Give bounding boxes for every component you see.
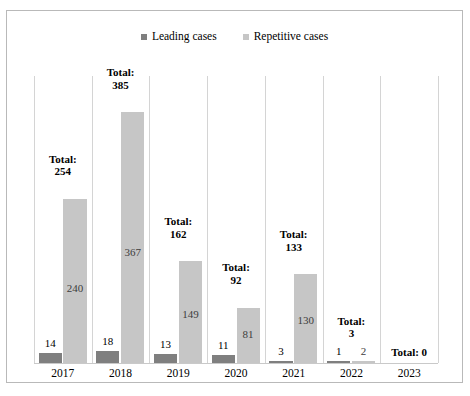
bar-group: 12Total: 3 bbox=[323, 76, 381, 363]
x-tick-label-2022: 2022 bbox=[323, 368, 381, 380]
chart-frame: Leading cases Repetitive cases 14240Tota… bbox=[6, 10, 463, 383]
bar-value-leading-cases: 11 bbox=[212, 340, 235, 351]
bar-group: 1181Total: 92 bbox=[207, 76, 265, 363]
category-baseline bbox=[34, 363, 438, 364]
x-tick-label-2017: 2017 bbox=[34, 368, 92, 380]
legend-label-leading-cases: Leading cases bbox=[152, 31, 217, 43]
legend-swatch-repetitive-cases bbox=[243, 34, 249, 40]
bar-value-repetitive-cases: 149 bbox=[179, 309, 202, 320]
total-label: Total: 92 bbox=[207, 261, 265, 286]
total-label: Total: 133 bbox=[265, 228, 323, 253]
bar-group: 14240Total: 254 bbox=[34, 76, 92, 363]
legend-item-leading-cases[interactable]: Leading cases bbox=[141, 31, 217, 43]
total-label: Total: 385 bbox=[92, 66, 150, 91]
bar-repetitive-cases[interactable] bbox=[121, 112, 144, 363]
bar-value-leading-cases: 14 bbox=[39, 338, 62, 349]
bar-value-repetitive-cases: 367 bbox=[121, 247, 144, 258]
bar-leading-cases[interactable] bbox=[154, 354, 177, 363]
x-tick-label-2018: 2018 bbox=[92, 368, 150, 380]
total-label: Total: 3 bbox=[323, 315, 381, 340]
legend-label-repetitive-cases: Repetitive cases bbox=[254, 31, 328, 43]
bar-leading-cases[interactable] bbox=[96, 351, 119, 363]
bar-group: 13149Total: 162 bbox=[149, 76, 207, 363]
chart-legend: Leading cases Repetitive cases bbox=[7, 31, 462, 43]
x-tick-label-2019: 2019 bbox=[149, 368, 207, 380]
bar-leading-cases[interactable] bbox=[212, 355, 235, 363]
bar-value-repetitive-cases: 240 bbox=[63, 283, 86, 294]
total-label: Total: 162 bbox=[149, 215, 207, 240]
bar-value-repetitive-cases: 130 bbox=[294, 315, 317, 326]
legend-swatch-leading-cases bbox=[141, 34, 147, 40]
bar-value-leading-cases: 3 bbox=[269, 346, 292, 357]
x-tick-label-2023: 2023 bbox=[380, 368, 438, 380]
x-tick-label-2020: 2020 bbox=[207, 368, 265, 380]
x-axis-tick-labels: 2017201820192020202120222023 bbox=[34, 368, 438, 388]
bar-leading-cases[interactable] bbox=[39, 353, 62, 363]
plot-area: 14240Total: 25418367Total: 38513149Total… bbox=[34, 76, 438, 363]
bar-value-leading-cases: 18 bbox=[96, 336, 119, 347]
total-label: Total: 0 bbox=[380, 346, 438, 359]
x-tick-label-2021: 2021 bbox=[265, 368, 323, 380]
bar-group: 18367Total: 385 bbox=[92, 76, 150, 363]
bar-value-leading-cases: 13 bbox=[154, 339, 177, 350]
legend-item-repetitive-cases[interactable]: Repetitive cases bbox=[243, 31, 328, 43]
bar-value-leading-cases: 1 bbox=[327, 346, 350, 357]
bar-group: 3130Total: 133 bbox=[265, 76, 323, 363]
bar-value-repetitive-cases: 2 bbox=[352, 346, 375, 357]
bar-value-repetitive-cases: 81 bbox=[237, 329, 260, 340]
total-label: Total: 254 bbox=[34, 153, 92, 178]
gridline bbox=[438, 76, 439, 363]
bar-repetitive-cases[interactable] bbox=[63, 199, 86, 363]
bar-group: Total: 0 bbox=[380, 76, 438, 363]
